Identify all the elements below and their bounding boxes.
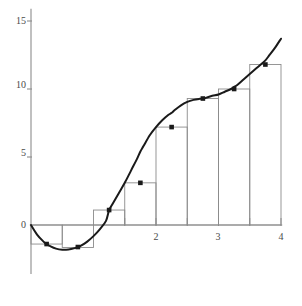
x-tick-label-4: 4 <box>271 232 291 242</box>
y-tick-label-0: 0 <box>6 220 26 230</box>
midpoint-marker <box>138 181 143 186</box>
riemann-sum-chart: 15 10 5 0 2 3 4 <box>0 0 302 306</box>
y-tick-label-5: 5 <box>6 148 26 158</box>
riemann-rectangles-group <box>31 65 281 248</box>
riemann-rectangle <box>62 225 93 247</box>
chart-plot-area <box>0 0 302 306</box>
midpoint-marker <box>263 62 268 67</box>
x-tick-label-3: 3 <box>208 232 228 242</box>
riemann-rectangle <box>156 127 187 225</box>
midpoint-marker <box>232 87 237 92</box>
midpoint-marker <box>76 245 81 250</box>
midpoint-marker <box>44 242 49 247</box>
midpoint-marker <box>107 208 112 213</box>
riemann-rectangle <box>31 225 62 244</box>
riemann-rectangle <box>219 89 250 225</box>
y-tick-label-15: 15 <box>6 16 26 26</box>
riemann-rectangle <box>250 65 281 225</box>
midpoint-marker <box>169 125 174 130</box>
y-tick-label-10: 10 <box>6 80 26 90</box>
riemann-rectangle <box>125 183 156 225</box>
x-tick-label-2: 2 <box>146 232 166 242</box>
midpoint-marker <box>201 96 206 101</box>
riemann-rectangle <box>187 99 218 225</box>
